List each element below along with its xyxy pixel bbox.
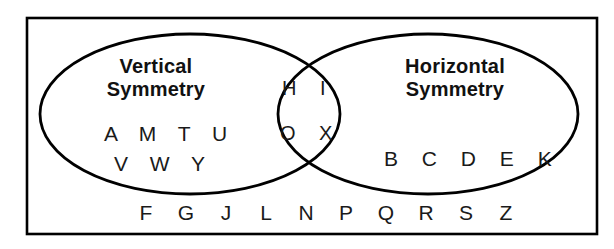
- right-set-letters-row-1: B C D E K: [384, 148, 561, 169]
- right-set-title: Horizontal Symmetry: [374, 56, 536, 99]
- venn-diagram-figure: Vertical Symmetry A M T U V W Y H I O X …: [0, 0, 614, 249]
- left-set-letters-row-2: V W Y: [114, 153, 213, 174]
- right-set-title-line1: Horizontal: [405, 55, 505, 77]
- outside-letter: G: [166, 202, 206, 223]
- outside-letters-row: FGJLNPQRSZ: [126, 202, 526, 223]
- outside-letter: F: [126, 202, 166, 223]
- outside-letter: L: [246, 202, 286, 223]
- right-set-title-line2: Symmetry: [374, 79, 536, 99]
- outside-letter: Q: [366, 202, 406, 223]
- left-set-title-line1: Vertical: [120, 55, 193, 77]
- outside-letter: Z: [486, 202, 526, 223]
- intersection-letters-row-2: O X: [280, 123, 341, 143]
- left-set-title: Vertical Symmetry: [66, 56, 246, 99]
- outside-letter: N: [286, 202, 326, 223]
- outside-letter: R: [406, 202, 446, 223]
- left-set-title-line2: Symmetry: [66, 79, 246, 99]
- outside-letter: J: [206, 202, 246, 223]
- outside-letter: S: [446, 202, 486, 223]
- left-set-letters-row-1: A M T U: [104, 123, 235, 144]
- intersection-letters-row-1: H I: [282, 78, 335, 98]
- outside-letter: P: [326, 202, 366, 223]
